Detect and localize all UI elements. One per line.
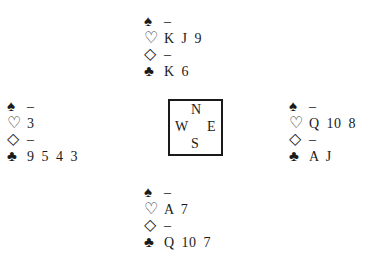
west-diamonds: ◇–	[7, 131, 78, 148]
east-diamonds: ◇–	[289, 131, 356, 148]
south-spades: ♠–	[144, 184, 211, 201]
heart-icon: ♡	[289, 115, 309, 132]
east-hearts: ♡Q 10 8	[289, 115, 356, 132]
south-hearts: ♡A 7	[144, 201, 211, 218]
heart-icon: ♡	[144, 201, 164, 218]
club-icon: ♣	[289, 148, 309, 165]
west-hearts: ♡3	[7, 115, 78, 132]
diamond-icon: ◇	[289, 131, 309, 148]
club-icon: ♣	[144, 63, 164, 80]
club-icon: ♣	[144, 234, 164, 251]
west-hand: ♠– ♡3 ◇– ♣9 5 4 3	[7, 98, 78, 164]
west-spades: ♠–	[7, 98, 78, 115]
north-clubs: ♣K 6	[144, 63, 202, 80]
east-clubs: ♣A J	[289, 148, 356, 165]
compass-south: S	[191, 136, 199, 152]
north-spades: ♠–	[144, 13, 202, 30]
north-diamonds: ◇–	[144, 46, 202, 63]
compass-box: N W E S	[168, 99, 223, 156]
diamond-icon: ◇	[7, 131, 27, 148]
club-icon: ♣	[7, 148, 27, 165]
compass-west: W	[175, 119, 188, 135]
south-diamonds: ◇–	[144, 217, 211, 234]
east-spades: ♠–	[289, 98, 356, 115]
heart-icon: ♡	[144, 30, 164, 47]
west-clubs: ♣9 5 4 3	[7, 148, 78, 165]
spade-icon: ♠	[144, 13, 164, 30]
compass-north: N	[191, 102, 201, 118]
east-hand: ♠– ♡Q 10 8 ◇– ♣A J	[289, 98, 356, 164]
spade-icon: ♠	[289, 98, 309, 115]
south-clubs: ♣Q 10 7	[144, 234, 211, 251]
south-hand: ♠– ♡A 7 ◇– ♣Q 10 7	[144, 184, 211, 250]
north-hand: ♠– ♡K J 9 ◇– ♣K 6	[144, 13, 202, 79]
heart-icon: ♡	[7, 115, 27, 132]
diamond-icon: ◇	[144, 217, 164, 234]
spade-icon: ♠	[7, 98, 27, 115]
spade-icon: ♠	[144, 184, 164, 201]
compass-east: E	[207, 119, 216, 135]
north-hearts: ♡K J 9	[144, 30, 202, 47]
diamond-icon: ◇	[144, 46, 164, 63]
